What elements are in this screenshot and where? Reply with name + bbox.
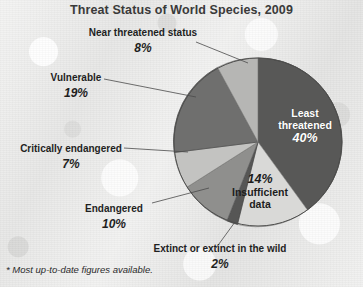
slice-label-least-threatened: Least threatened 40% bbox=[262, 107, 348, 146]
slice-percent-insufficient-data: 14% bbox=[215, 172, 305, 186]
slice-label-least-threatened-line1: Least bbox=[262, 107, 348, 119]
chart-figure: Threat Status of World Species, 2009 bbox=[0, 0, 363, 287]
callout-label-critically-endangered: Critically endangered bbox=[10, 143, 132, 155]
callout-percent-endangered: 10% bbox=[68, 217, 160, 231]
callout-vulnerable: Vulnerable 19% bbox=[30, 72, 122, 100]
chart-footnote: * Most up-to-date figures available. bbox=[6, 264, 153, 275]
callout-percent-vulnerable: 19% bbox=[30, 86, 122, 100]
callout-percent-extinct: 2% bbox=[146, 257, 294, 271]
callout-label-near-threatened: Near threatened status bbox=[76, 27, 210, 39]
slice-label-insufficient-data-line1: Insufficient bbox=[215, 186, 305, 198]
callout-extinct: Extinct or extinct in the wild 2% bbox=[146, 243, 294, 271]
callout-percent-critically-endangered: 7% bbox=[10, 157, 132, 171]
slice-label-insufficient-data-line2: data bbox=[215, 198, 305, 210]
callout-percent-near-threatened: 8% bbox=[76, 41, 210, 55]
callout-near-threatened: Near threatened status 8% bbox=[76, 27, 210, 55]
callout-label-extinct: Extinct or extinct in the wild bbox=[146, 243, 294, 255]
callout-critically-endangered: Critically endangered 7% bbox=[10, 143, 132, 171]
callout-label-endangered: Endangered bbox=[68, 203, 160, 215]
slice-label-least-threatened-line2: threatened bbox=[262, 119, 348, 131]
callout-label-vulnerable: Vulnerable bbox=[30, 72, 122, 84]
slice-percent-least-threatened: 40% bbox=[262, 131, 348, 145]
slice-label-insufficient-data: 14% Insufficient data bbox=[215, 172, 305, 211]
callout-endangered: Endangered 10% bbox=[68, 203, 160, 231]
